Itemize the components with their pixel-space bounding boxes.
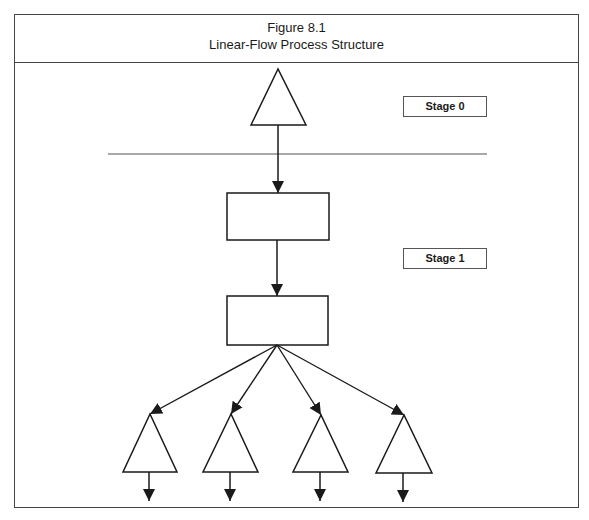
arrow-box2-to-output3 — [277, 345, 321, 415]
source-triangle — [251, 69, 306, 125]
arrow-box2-to-output4 — [277, 345, 404, 415]
output-triangle-3 — [293, 415, 348, 472]
arrow-box2-to-output2 — [231, 345, 277, 414]
process-diagram — [0, 0, 589, 520]
output-triangle-1 — [123, 414, 177, 472]
process-box-2 — [227, 296, 328, 345]
stage-0-label: Stage 0 — [403, 96, 487, 117]
process-box-1 — [227, 193, 329, 240]
arrow-box2-to-output1 — [150, 345, 277, 414]
stage-1-label: Stage 1 — [403, 248, 487, 269]
output-triangle-2 — [203, 414, 258, 472]
output-triangle-4 — [376, 415, 432, 473]
